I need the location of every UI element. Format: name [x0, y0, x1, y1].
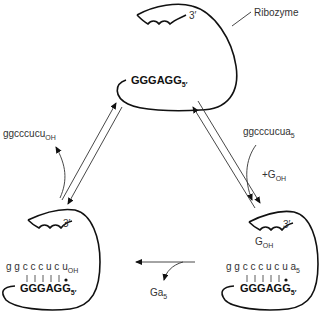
right-equilibrium-arrows: ggcccucua5 +GOH [193, 101, 295, 208]
top-strand: GGGAGG5′ [131, 74, 188, 88]
ribozyme-top-body [117, 4, 237, 110]
ribozyme-label: Ribozyme [254, 7, 299, 18]
left-3prime-label: 3′ [63, 218, 71, 229]
ribozyme-cycle-diagram: 3′ Ribozyme GGGAGG5′ ggcccucuOH ggcccucu… [0, 0, 322, 319]
ribozyme-top: 3′ Ribozyme GGGAGG5′ [117, 4, 299, 110]
bound-guanosine: GOH [255, 236, 273, 249]
arrow-left-to-top [62, 103, 116, 200]
incoming-substrate-label: ggcccucua5 [243, 126, 295, 139]
ribozyme-top-pocket [137, 15, 186, 24]
right-base-pairs [247, 275, 288, 282]
right-strand: GGGAGG5′ [240, 282, 297, 296]
left-strand: GGGAGG5′ [20, 282, 77, 296]
arrow-top-to-right [198, 101, 260, 203]
released-product-label: ggcccucuOH [3, 128, 56, 141]
arrow-top-to-left [68, 107, 122, 204]
ribozyme-pointer-line [232, 12, 251, 26]
release-ga5-arrow [164, 262, 183, 280]
ribozyme-right: 3′ GOH g g c c c u c u a5 GGGAGG5′ [222, 211, 318, 310]
release-product-arrow [56, 147, 65, 198]
bottom-cleavage-arrow: Ga5 [136, 262, 195, 300]
left-base-pairs [27, 275, 68, 282]
right-substrate: g g c c c u c u a5 [226, 261, 300, 274]
arrow-right-to-top [193, 107, 255, 208]
substrate-binding-arrow [247, 145, 256, 200]
left-substrate: g g c c c u c uOH [6, 261, 78, 274]
cofactor-label: +GOH [262, 169, 286, 182]
ribozyme-left-body [3, 209, 100, 310]
released-ga5-label: Ga5 [150, 287, 167, 300]
left-equilibrium-arrows: ggcccucuOH [3, 103, 122, 204]
right-3prime-label: 3′ [283, 219, 291, 230]
top-3prime-label: 3′ [189, 10, 197, 21]
ribozyme-left: 3′ g g c c c u c uOH GGGAGG5′ [3, 209, 100, 310]
